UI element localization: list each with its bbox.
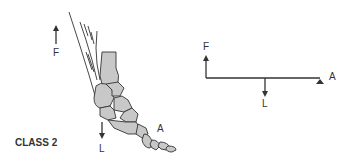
schematic-lever: F L A [203, 41, 336, 109]
metatarsal-bone [108, 120, 140, 134]
schematic-load-label: L [262, 98, 268, 109]
class-label: CLASS 2 [15, 137, 58, 148]
fulcrum-icon [316, 79, 324, 84]
schematic-effort-label: F [203, 41, 209, 52]
load-label: L [99, 143, 105, 154]
achilles-tendon [69, 12, 100, 100]
axis-label: A [157, 123, 164, 134]
foot-skeleton [94, 82, 176, 152]
schematic-axis-label: A [329, 71, 336, 82]
effort-label: F [53, 47, 59, 58]
phalanx-5 [166, 146, 176, 152]
schematic-load-arrow-icon [262, 78, 268, 97]
schematic-effort-arrow-icon [203, 55, 209, 78]
effort-arrow-icon [53, 25, 59, 44]
lever-class-2-diagram: F A L CLASS 2 F [0, 0, 354, 168]
load-arrow-icon [99, 122, 105, 139]
